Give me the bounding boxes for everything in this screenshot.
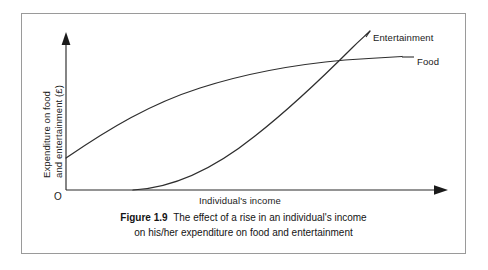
series-label-food: Food [417,56,439,67]
figure-caption: Figure 1.9 The effect of a rise in an in… [31,211,456,240]
figure-container: Entertainment Food Individual's income O… [0,0,488,270]
caption-text-1: The effect of a rise in an individual's … [173,212,367,223]
caption-figure-number: Figure 1.9 [120,212,167,223]
x-axis-label: Individual's income [199,195,281,206]
origin-label: O [54,191,62,202]
caption-line-1: Figure 1.9 The effect of a rise in an in… [31,211,456,226]
caption-line-2: on his/her expenditure on food and enter… [31,226,456,241]
y-axis-label-line-1: Expenditure on food [41,91,52,178]
y-axis-label-line-2: and entertainment (£) [53,85,64,178]
series-label-entertainment: Entertainment [373,32,433,43]
y-axis-label: Expenditure on food and entertainment (£… [30,60,56,178]
